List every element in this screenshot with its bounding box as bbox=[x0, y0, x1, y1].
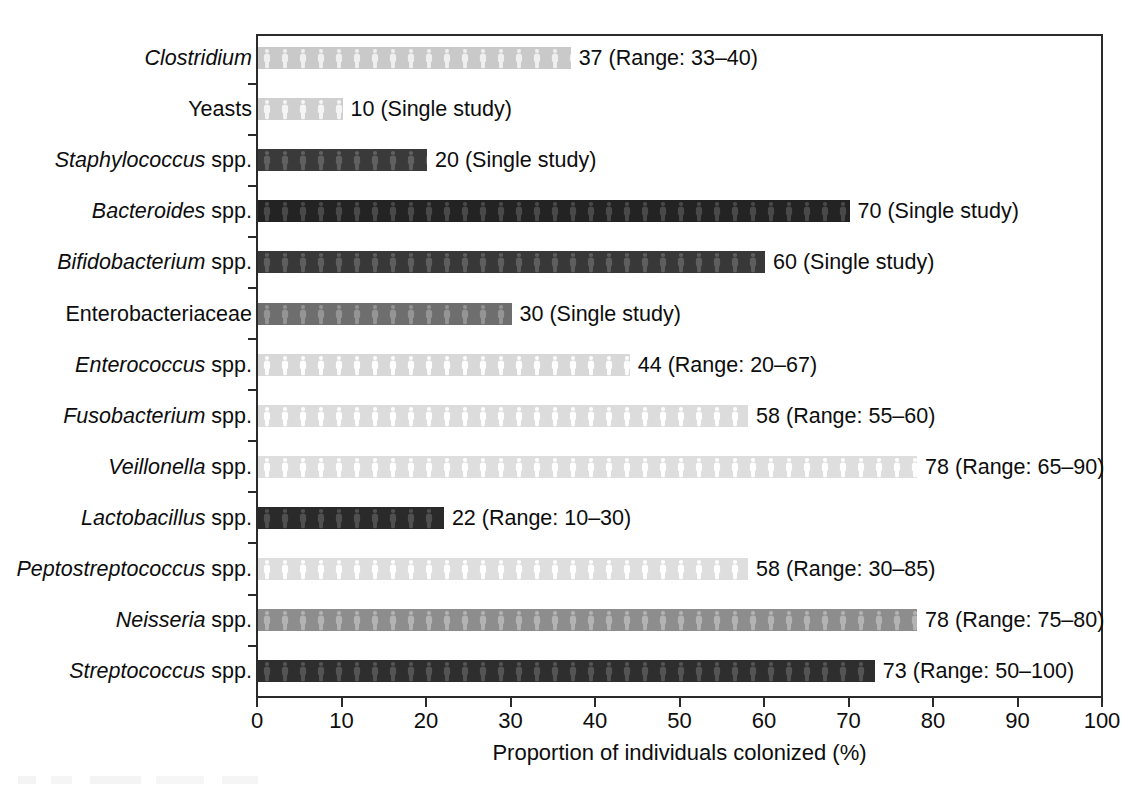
category-label: Lactobacillus spp. bbox=[0, 507, 252, 529]
category-label: Staphylococcus spp. bbox=[0, 149, 252, 171]
x-axis-tick-label: 80 bbox=[921, 708, 945, 734]
category-suffix: spp. bbox=[205, 148, 252, 172]
category-label: Bifidobacterium spp. bbox=[0, 251, 252, 273]
category-suffix: spp. bbox=[205, 659, 252, 683]
category-genus: Clostridium bbox=[144, 46, 252, 70]
bar-row: Staphylococcus spp.20 (Single study) bbox=[0, 149, 1143, 200]
bar bbox=[258, 660, 875, 682]
category-genus: Streptococcus bbox=[69, 659, 205, 683]
category-genus: Lactobacillus bbox=[81, 506, 205, 530]
x-axis-tick-label: 40 bbox=[583, 708, 607, 734]
bar-row: Lactobacillus spp.22 (Range: 10–30) bbox=[0, 507, 1143, 558]
category-label: Streptococcus spp. bbox=[0, 660, 252, 682]
bar-row: Yeasts10 (Single study) bbox=[0, 98, 1143, 149]
category-suffix: spp. bbox=[205, 557, 252, 581]
category-suffix: Enterobacteriaceae bbox=[66, 302, 252, 326]
bar bbox=[258, 149, 427, 171]
figure-bar-chart: Clostridium37 (Range: 33–40)Yeasts10 (Si… bbox=[0, 0, 1143, 788]
bar-value-label: 10 (Single study) bbox=[351, 96, 512, 122]
bar bbox=[258, 47, 571, 69]
bar-value-label: 58 (Range: 30–85) bbox=[756, 556, 935, 582]
x-axis-tick-label: 50 bbox=[667, 708, 691, 734]
x-axis-tick-label: 100 bbox=[1084, 708, 1121, 734]
category-genus: Bifidobacterium bbox=[57, 250, 205, 274]
category-label: Enterobacteriaceae bbox=[0, 303, 252, 325]
category-genus: Fusobacterium bbox=[63, 404, 205, 428]
bar bbox=[258, 251, 765, 273]
bar-value-label: 20 (Single study) bbox=[435, 147, 596, 173]
category-genus: Peptostreptococcus bbox=[17, 557, 206, 581]
bar bbox=[258, 558, 748, 580]
category-suffix: spp. bbox=[205, 250, 252, 274]
bar-value-label: 44 (Range: 20–67) bbox=[638, 352, 817, 378]
bar-value-label: 30 (Single study) bbox=[520, 301, 681, 327]
bar bbox=[258, 507, 444, 529]
x-axis-tick-label: 20 bbox=[414, 708, 438, 734]
bar-value-label: 58 (Range: 55–60) bbox=[756, 403, 935, 429]
bar bbox=[258, 609, 917, 631]
category-suffix: spp. bbox=[205, 353, 252, 377]
category-genus: Neisseria bbox=[116, 608, 206, 632]
category-genus: Bacteroides bbox=[92, 199, 206, 223]
x-axis-tick-label: 10 bbox=[329, 708, 353, 734]
bar-row: Bifidobacterium spp.60 (Single study) bbox=[0, 251, 1143, 302]
category-label: Veillonella spp. bbox=[0, 456, 252, 478]
x-axis-tick-label: 70 bbox=[836, 708, 860, 734]
bar bbox=[258, 98, 343, 120]
bar bbox=[258, 354, 630, 376]
category-genus: Veillonella bbox=[108, 455, 205, 479]
category-suffix: spp. bbox=[205, 608, 252, 632]
category-suffix: spp. bbox=[205, 404, 252, 428]
bar-row: Veillonella spp.78 (Range: 65–90) bbox=[0, 456, 1143, 507]
category-suffix: spp. bbox=[205, 506, 252, 530]
category-label: Bacteroides spp. bbox=[0, 200, 252, 222]
bar-row: Streptococcus spp.73 (Range: 50–100) bbox=[0, 660, 1143, 711]
category-suffix: Yeasts bbox=[188, 97, 252, 121]
bar-value-label: 78 (Range: 65–90) bbox=[925, 454, 1104, 480]
bar bbox=[258, 456, 917, 478]
category-label: Peptostreptococcus spp. bbox=[0, 558, 252, 580]
category-label: Enterococcus spp. bbox=[0, 354, 252, 376]
bar-row: Peptostreptococcus spp.58 (Range: 30–85) bbox=[0, 558, 1143, 609]
category-suffix: spp. bbox=[205, 199, 252, 223]
bar bbox=[258, 405, 748, 427]
x-axis-title: Proportion of individuals colonized (%) bbox=[256, 740, 1103, 766]
bar-value-label: 22 (Range: 10–30) bbox=[452, 505, 631, 531]
category-label: Neisseria spp. bbox=[0, 609, 252, 631]
bar-row: Fusobacterium spp.58 (Range: 55–60) bbox=[0, 405, 1143, 456]
bar-value-label: 37 (Range: 33–40) bbox=[579, 45, 758, 71]
cropped-caption-fragment bbox=[18, 776, 318, 784]
x-axis-tick-label: 0 bbox=[251, 708, 263, 734]
x-axis-tick-label: 30 bbox=[498, 708, 522, 734]
category-suffix: spp. bbox=[205, 455, 252, 479]
bar-row: Clostridium37 (Range: 33–40) bbox=[0, 47, 1143, 98]
bar-value-label: 73 (Range: 50–100) bbox=[883, 658, 1074, 684]
category-genus: Enterococcus bbox=[75, 353, 205, 377]
category-label: Yeasts bbox=[0, 98, 252, 120]
bar-value-label: 78 (Range: 75–80) bbox=[925, 607, 1104, 633]
category-label: Fusobacterium spp. bbox=[0, 405, 252, 427]
category-label: Clostridium bbox=[0, 47, 252, 69]
x-axis-tick-label: 90 bbox=[1005, 708, 1029, 734]
x-axis-tick-label: 60 bbox=[752, 708, 776, 734]
bar-value-label: 60 (Single study) bbox=[773, 249, 934, 275]
bar bbox=[258, 303, 512, 325]
bar-row: Neisseria spp.78 (Range: 75–80) bbox=[0, 609, 1143, 660]
bar-value-label: 70 (Single study) bbox=[858, 198, 1019, 224]
bar-row: Enterobacteriaceae30 (Single study) bbox=[0, 303, 1143, 354]
bar-row: Enterococcus spp.44 (Range: 20–67) bbox=[0, 354, 1143, 405]
category-genus: Staphylococcus bbox=[55, 148, 206, 172]
bar-row: Bacteroides spp.70 (Single study) bbox=[0, 200, 1143, 251]
bar bbox=[258, 200, 850, 222]
